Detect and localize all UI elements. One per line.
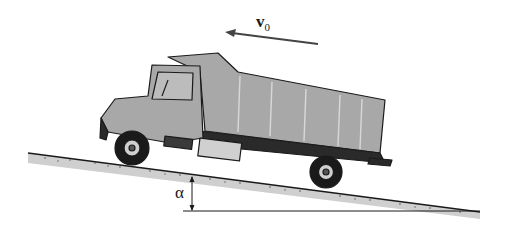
- velocity-arrow: [225, 29, 318, 44]
- rear-wheel: [310, 156, 342, 188]
- diagram-canvas: [0, 0, 513, 227]
- angle-dimension-arrow: [190, 176, 195, 211]
- front-wheel: [115, 131, 149, 165]
- cab-window: [152, 72, 193, 100]
- velocity-label: v0: [256, 12, 270, 33]
- angle-label: α: [175, 183, 184, 203]
- incline-ground: [28, 153, 480, 219]
